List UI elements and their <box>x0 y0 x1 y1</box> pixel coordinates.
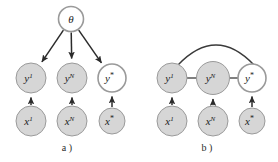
node-panel-b-xN[interactable]: xN <box>198 106 228 136</box>
panel-caption-panel-b: b ) <box>202 142 213 154</box>
node-panel-a-ystar[interactable]: y* <box>98 64 126 92</box>
node-panel-a-xstar[interactable]: x* <box>99 108 125 134</box>
diagram-canvas: θy1yNy*x1xNx*y1yNy*x1xNx* a )b ) <box>0 0 278 162</box>
node-panel-b-xstar[interactable]: x* <box>239 108 265 134</box>
node-panel-a-x1[interactable]: x1 <box>16 106 46 136</box>
node-label: θ <box>68 13 74 25</box>
node-panel-b-y1[interactable]: y1 <box>157 63 187 93</box>
node-panel-b-ystar[interactable]: y* <box>238 64 266 92</box>
node-panel-b-yN[interactable]: yN <box>197 62 230 95</box>
node-panel-a-yN[interactable]: yN <box>57 63 87 93</box>
directed-edge-theta-to-y1 <box>42 30 63 62</box>
node-panel-a-theta[interactable]: θ <box>59 7 84 32</box>
node-layer: θy1yNy*x1xNx*y1yNy*x1xNx* <box>16 7 266 137</box>
directed-edge-theta-to-ystar <box>79 30 102 63</box>
node-panel-b-x1[interactable]: x1 <box>157 106 187 136</box>
caption-layer: a )b ) <box>62 142 213 154</box>
node-panel-a-y1[interactable]: y1 <box>16 63 46 93</box>
panel-caption-panel-a: a ) <box>62 142 72 154</box>
node-panel-a-xN[interactable]: xN <box>57 106 87 136</box>
graphical-model-figure: θy1yNy*x1xNx*y1yNy*x1xNx* a )b ) <box>0 0 278 162</box>
